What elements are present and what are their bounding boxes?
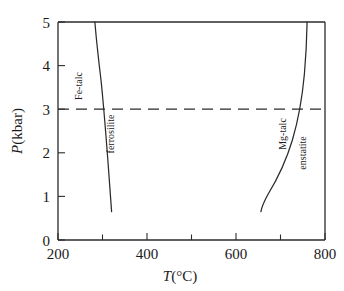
x-tick-label-800: 800 — [314, 246, 337, 262]
y-tick-label-3: 3 — [43, 102, 51, 118]
enstatite-field-label-text: enstatite — [297, 136, 308, 170]
enstatite-field-label: enstatite — [297, 136, 308, 170]
fe-talc-field-label-text: Fe-talc — [73, 72, 84, 100]
y-tick-label-4: 4 — [43, 58, 51, 74]
phase-diagram-plot: 0 1 2 3 4 5 P(kbar) 200 400 600 800 — [0, 0, 344, 291]
x-tick-label-400: 400 — [136, 246, 159, 262]
x-tick-label-200: 200 — [47, 246, 70, 262]
phase-diagram-figure: 0 1 2 3 4 5 P(kbar) 200 400 600 800 — [0, 0, 344, 291]
y-axis-title-unit: (kbar) — [9, 108, 26, 145]
mg-talc-field-label: Mg-talc — [277, 118, 288, 150]
y-axis-title: P(kbar) — [9, 108, 26, 155]
x-axis-title: T(°C) — [163, 268, 197, 285]
ferrosilite-field-label: ferrosilite — [105, 114, 116, 153]
y-tick-label-2: 2 — [43, 145, 51, 161]
y-tick-label-1: 1 — [43, 189, 51, 205]
ferrosilite-field-label-text: ferrosilite — [105, 114, 116, 153]
x-tick-label-600: 600 — [225, 246, 248, 262]
fe-talc-field-label: Fe-talc — [73, 72, 84, 100]
x-axis-title-unit: (°C) — [171, 268, 197, 285]
y-axis-title-text: P(kbar) — [9, 108, 26, 155]
y-tick-label-5: 5 — [43, 15, 51, 31]
mg-talc-field-label-text: Mg-talc — [277, 118, 288, 150]
y-axis-title-variable: P — [9, 145, 25, 155]
